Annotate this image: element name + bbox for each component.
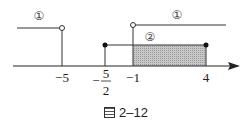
figure-caption: 2–12	[0, 105, 252, 120]
closed-endpoint-4	[204, 43, 209, 48]
set2-label: ②	[145, 30, 156, 44]
fraction-numerator: 5	[103, 66, 110, 81]
open-endpoint-minus5	[60, 26, 65, 31]
intersection-shaded-region	[133, 45, 206, 66]
open-endpoint-minus1	[131, 23, 136, 28]
figure-number: 2–12	[119, 105, 148, 120]
fraction-sign: −	[92, 73, 99, 88]
tick-label-minus5-over-2: − 5 2	[92, 66, 111, 98]
fraction-denominator: 2	[103, 83, 110, 98]
tick-label-4: 4	[203, 70, 210, 85]
set1-right-label: ①	[172, 8, 183, 22]
figure-icon	[104, 107, 115, 118]
set1-left-label: ①	[34, 9, 45, 23]
tick-label-minus1: −1	[126, 70, 140, 85]
tick-label-minus5: −5	[55, 70, 69, 85]
closed-endpoint-minus5-2	[103, 43, 108, 48]
